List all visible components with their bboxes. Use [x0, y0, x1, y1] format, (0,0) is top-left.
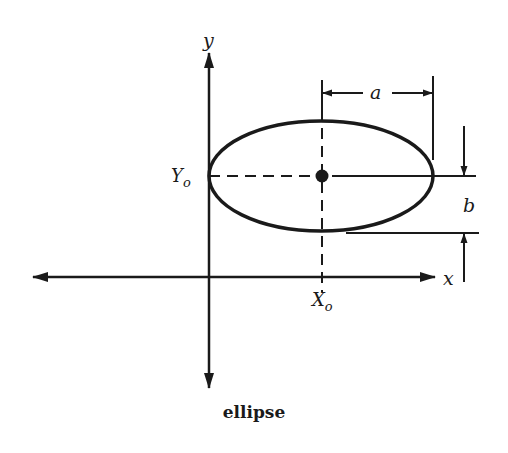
x-center-label: Xo — [310, 289, 333, 314]
semi-major-label: a — [370, 81, 381, 103]
dimension-b — [346, 126, 479, 282]
svg-text:Yo: Yo — [171, 165, 191, 190]
figure-caption: ellipse — [223, 402, 286, 422]
svg-text:Xo: Xo — [310, 289, 333, 314]
semi-minor-label: b — [463, 194, 475, 216]
y-center-subscript: o — [183, 175, 191, 190]
x-axis-label: x — [443, 267, 454, 289]
center-point — [316, 170, 329, 183]
y-axis-label: y — [202, 29, 214, 51]
ellipse-diagram: y x a b Yo Xo ellipse — [0, 0, 508, 453]
x-center-subscript: o — [325, 299, 333, 314]
x-center-main: X — [310, 289, 326, 310]
y-center-label: Yo — [171, 165, 191, 190]
